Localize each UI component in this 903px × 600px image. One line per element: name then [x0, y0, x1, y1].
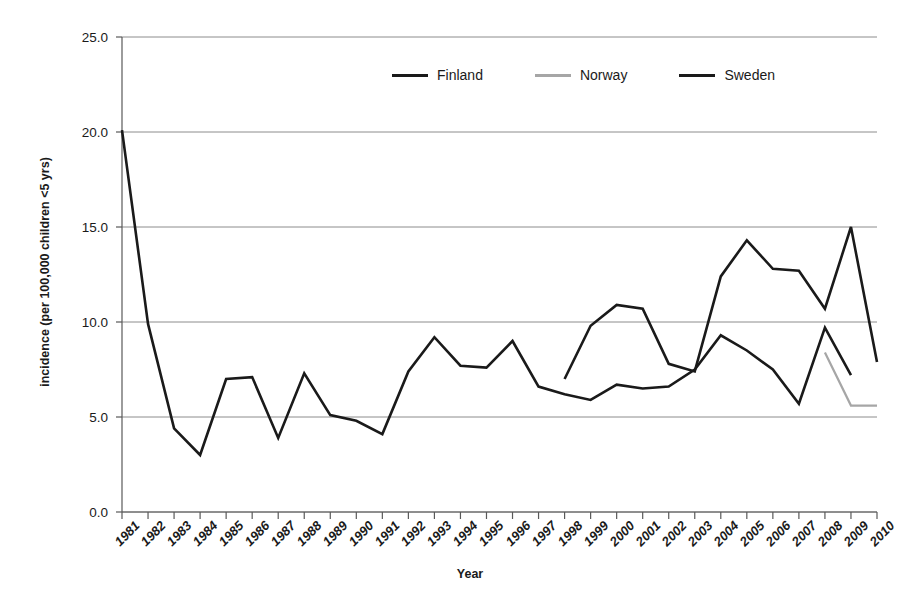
- data-series: [122, 130, 877, 455]
- y-tick-label-5: 5.0: [56, 410, 108, 425]
- y-tick-label-20: 20.0: [56, 125, 108, 140]
- y-tick-label-25: 25.0: [56, 30, 108, 45]
- plot-area: [0, 0, 903, 600]
- y-tick-label-15: 15.0: [56, 220, 108, 235]
- legend-entry-finland[interactable]: Finland: [392, 67, 483, 83]
- legend-swatch-sweden: [679, 74, 715, 77]
- legend-entry-norway[interactable]: Norway: [535, 67, 627, 83]
- y-axis-title: incidence (per 100,000 children <5 yrs): [38, 62, 52, 482]
- y-tick-label-10: 10.0: [56, 315, 108, 330]
- legend-swatch-finland: [392, 74, 428, 77]
- legend-swatch-norway: [535, 74, 571, 77]
- chart-legend: FinlandNorwaySweden: [392, 62, 812, 88]
- series-line-sweden: [565, 227, 877, 379]
- line-chart: incidence (per 100,000 children <5 yrs) …: [0, 0, 903, 600]
- legend-entry-sweden[interactable]: Sweden: [679, 67, 775, 83]
- series-line-finland: [122, 130, 851, 455]
- legend-label-finland: Finland: [437, 67, 483, 83]
- legend-label-sweden: Sweden: [724, 67, 775, 83]
- axis-lines: [122, 37, 877, 512]
- series-line-norway: [825, 352, 877, 405]
- gridlines: [122, 37, 877, 512]
- legend-label-norway: Norway: [580, 67, 627, 83]
- y-axis-ticks: [116, 37, 122, 512]
- y-tick-label-0: 0.0: [56, 505, 108, 520]
